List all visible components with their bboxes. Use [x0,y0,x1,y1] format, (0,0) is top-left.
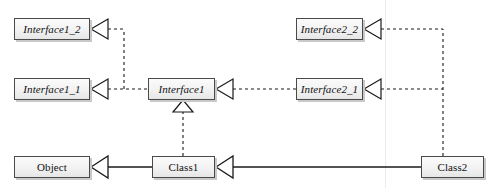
node-interface1_2[interactable]: Interface1_2 [14,18,90,40]
node-class1[interactable]: Class1 [152,156,215,178]
arrowhead-interface2_2 [364,19,381,39]
node-label: Interface2_2 [301,24,358,35]
node-label: Object [37,162,67,173]
arrowhead-interface1_1 [91,79,108,99]
arrowhead-interface1-right [216,79,233,99]
node-interface1_1[interactable]: Interface1_1 [14,78,90,100]
node-interface2_2[interactable]: Interface2_2 [296,18,363,40]
diagram-canvas: Interface1_2 Interface1_1 Interface1 Int… [0,0,487,188]
node-label: Interface1_2 [23,24,80,35]
node-class2[interactable]: Class2 [421,156,484,178]
arrowhead-interface1_2 [91,19,108,39]
arrowhead-interface1-bottom [173,100,193,112]
node-label: Class2 [438,162,468,173]
node-label: Interface2_1 [301,84,358,95]
arrowhead-interface2_1 [364,79,381,99]
node-object[interactable]: Object [14,156,90,178]
node-label: Interface1 [158,84,204,95]
arrowhead-object [91,156,108,178]
node-label: Interface1_1 [23,84,80,95]
node-interface2_1[interactable]: Interface2_1 [296,78,363,100]
arrowhead-class1 [216,156,233,178]
node-interface1[interactable]: Interface1 [148,78,215,100]
node-label: Class1 [169,162,199,173]
